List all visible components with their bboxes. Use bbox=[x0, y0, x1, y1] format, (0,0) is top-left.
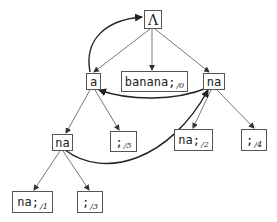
edge-root-a bbox=[94, 29, 150, 72]
diagram-canvas bbox=[0, 0, 277, 222]
node-na-right: na bbox=[203, 73, 225, 90]
edge-na-semi4 bbox=[217, 90, 254, 128]
node-a: a bbox=[86, 73, 101, 90]
leaf-index: /1 bbox=[40, 202, 48, 211]
edge-a-na bbox=[66, 90, 90, 133]
node-label: na bbox=[207, 75, 221, 89]
node-nasemi1-leaf: na;/1 bbox=[12, 191, 53, 213]
edge-na-nasemi1 bbox=[34, 151, 60, 190]
leaf-index: /3 bbox=[90, 202, 98, 211]
node-label: ; bbox=[82, 195, 89, 209]
leaf-index: /0 bbox=[176, 81, 184, 90]
node-banana-leaf: banana;/0 bbox=[121, 71, 188, 92]
edge-a-semi5 bbox=[95, 90, 119, 130]
suffix-link-na-na bbox=[65, 90, 208, 164]
node-label: banana; bbox=[125, 75, 176, 89]
node-label: na bbox=[55, 136, 69, 150]
node-label: na; bbox=[178, 133, 200, 147]
node-semi4-leaf: ;/4 bbox=[241, 129, 267, 151]
node-label: Λ bbox=[148, 12, 158, 28]
suffix-link-a-root bbox=[89, 17, 142, 72]
leaf-index: /2 bbox=[201, 140, 209, 149]
node-label: ; bbox=[246, 133, 253, 147]
node-nasemi2-leaf: na;/2 bbox=[174, 129, 213, 151]
node-label: a bbox=[90, 75, 97, 89]
tree-edges bbox=[34, 29, 254, 190]
node-semi3-leaf: ;/3 bbox=[77, 191, 103, 213]
node-root: Λ bbox=[144, 10, 162, 29]
node-label: ; bbox=[115, 135, 122, 149]
leaf-index: /4 bbox=[254, 140, 262, 149]
node-na-left: na bbox=[52, 134, 73, 151]
leaf-index: /5 bbox=[124, 141, 132, 150]
node-label: na; bbox=[17, 195, 39, 209]
node-semi5-leaf: ;/5 bbox=[110, 131, 137, 152]
edge-root-na bbox=[155, 29, 209, 72]
